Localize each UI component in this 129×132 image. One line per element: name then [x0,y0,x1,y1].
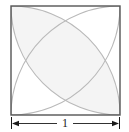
geometry-diagram-canvas [0,0,129,132]
dimension-arrow-left-icon [12,121,19,126]
geometry-figure: 1 [0,0,129,132]
dimension-arrow-right-icon [112,121,119,126]
dimension-label: 1 [57,116,73,130]
